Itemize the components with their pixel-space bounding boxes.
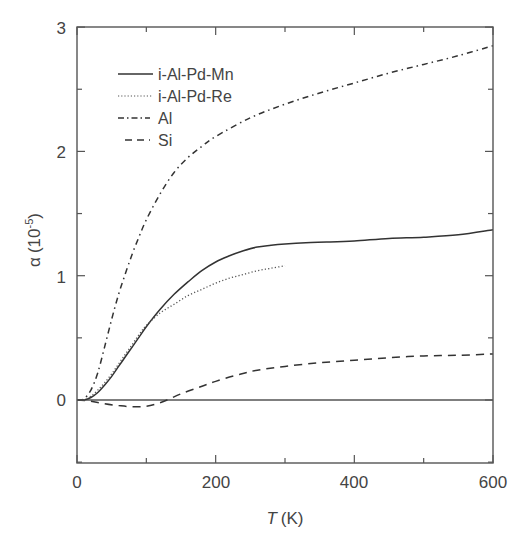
legend-label-al: Al — [158, 110, 172, 127]
series-line-al — [77, 46, 493, 400]
x-tick-label-0: 0 — [72, 473, 81, 492]
series-line-i-al-pd-mn — [77, 230, 493, 400]
y-tick-label-0: 0 — [57, 391, 66, 410]
legend-label-si: Si — [158, 132, 172, 149]
thermal-expansion-chart: 0 1 2 3 0 200 400 600 T(K) α(10-5) i-Al-… — [0, 0, 529, 540]
legend-label-re: i-Al-Pd-Re — [158, 88, 232, 105]
y-axis-label: α(10-5) — [23, 213, 44, 267]
y-tick-label-2: 2 — [57, 143, 66, 162]
plot-frame — [77, 27, 493, 463]
legend: i-Al-Pd-Mn i-Al-Pd-Re Al Si — [118, 66, 234, 149]
x-tick-label-400: 400 — [340, 473, 368, 492]
x-tick-label-600: 600 — [479, 473, 507, 492]
series-layer — [77, 46, 493, 407]
y-tick-label-3: 3 — [57, 19, 66, 38]
y-tick-label-1: 1 — [57, 268, 66, 287]
axis-ticks — [77, 27, 493, 463]
series-line-si — [77, 354, 493, 407]
x-tick-label-200: 200 — [202, 473, 230, 492]
x-axis-label: T(K) — [266, 509, 303, 528]
legend-label-mn: i-Al-Pd-Mn — [158, 66, 234, 83]
